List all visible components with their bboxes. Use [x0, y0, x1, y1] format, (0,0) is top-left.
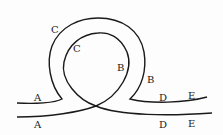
label-c-inner: C: [73, 44, 81, 54]
label-d-inner: D: [159, 120, 167, 130]
loop-track-diagram: A A C C B B D E D E: [0, 0, 223, 135]
label-b-inner: B: [117, 63, 124, 73]
label-e-outer: E: [188, 91, 195, 101]
inner-track: [17, 33, 212, 117]
label-b-outer: B: [147, 75, 154, 85]
label-a-outer: A: [34, 93, 41, 103]
track-lines: [0, 0, 223, 135]
label-a-inner: A: [34, 120, 41, 130]
outer-track: [17, 18, 207, 103]
label-e-inner: E: [188, 119, 195, 129]
label-d-outer: D: [159, 93, 167, 103]
label-c-outer: C: [51, 25, 59, 35]
